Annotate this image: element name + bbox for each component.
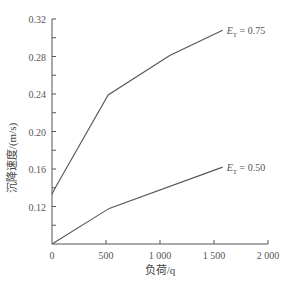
x-tick-label: 0 [50,250,55,261]
axes: 05001 0001 5002 0000.120.160.200.240.280… [29,14,280,261]
x-tick-label: 500 [99,250,114,261]
line-chart: 05001 0001 5002 0000.120.160.200.240.280… [0,0,291,283]
y-axis-label: 沉降速度/(m/s) [5,123,19,194]
x-tick-label: 2 000 [257,250,280,261]
y-tick-label: 0.24 [29,89,47,100]
series-line [52,167,223,244]
x-axis-label: 负荷/q [145,263,176,276]
y-tick-label: 0.32 [29,14,47,25]
x-tick-label: 1 000 [149,250,172,261]
x-tick-label: 1 500 [203,250,226,261]
y-tick-label: 0.12 [29,202,47,213]
series-line [52,30,223,194]
series-label: ET = 0.75 [226,25,266,39]
y-tick-label: 0.28 [29,52,47,63]
y-tick-label: 0.16 [29,164,47,175]
series-label: ET = 0.50 [226,162,266,176]
y-tick-label: 0.20 [29,127,47,138]
plot-area: ET = 0.75ET = 0.50 [52,25,265,244]
